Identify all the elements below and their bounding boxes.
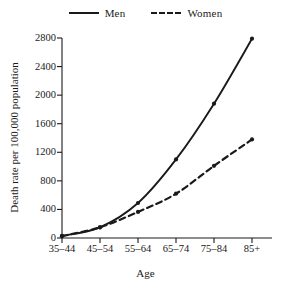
y-tick-label: 1200 [22, 147, 56, 158]
data-point-men [250, 37, 254, 41]
death-rate-by-age-chart: Men Women 040080012001600200024002800 De… [0, 0, 291, 292]
x-axis-title: Age [0, 268, 291, 279]
data-point-men [212, 102, 216, 106]
data-point-men [174, 157, 178, 161]
data-point-women [60, 234, 64, 238]
data-point-women [212, 164, 216, 168]
data-point-women [250, 137, 254, 141]
data-point-women [98, 225, 102, 229]
x-axis-tick-labels: 35–4445–5455–6465–7475–8485+ [0, 244, 291, 258]
data-point-men [136, 201, 140, 205]
y-tick-label: 2400 [22, 62, 56, 73]
y-tick-label: 0 [22, 233, 56, 244]
series-line-men [62, 39, 252, 236]
y-tick-label: 2800 [22, 33, 56, 44]
data-point-women [136, 210, 140, 214]
y-tick-label: 2000 [22, 90, 56, 101]
y-axis-title: Death rate per 100,000 population [9, 38, 20, 238]
x-tick-label: 85+ [229, 244, 275, 255]
data-point-women [174, 192, 178, 196]
series-line-women [62, 139, 252, 236]
plot-area: 040080012001600200024002800 Death rate p… [0, 0, 291, 292]
y-tick-label: 1600 [22, 119, 56, 130]
y-tick-label: 800 [22, 176, 56, 187]
y-tick-label: 400 [22, 204, 56, 215]
